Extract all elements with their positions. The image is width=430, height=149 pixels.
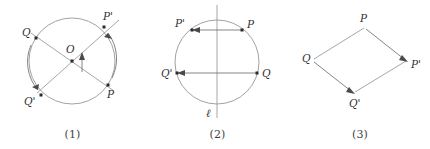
vertex-dot-o — [71, 60, 74, 63]
chord-p-pprime — [37, 20, 119, 93]
vertex-dot-qprime — [176, 72, 179, 75]
figure-2-reflection-diagram: P P' Q Q' ℓ — [145, 0, 290, 125]
side-q-to-p — [314, 28, 364, 59]
label-p: P — [359, 12, 368, 24]
arrowhead-qprime — [32, 84, 39, 90]
rotation-indicator-arrowhead — [79, 52, 85, 60]
label-p: P — [106, 88, 115, 100]
vertex-dot-pprime — [191, 29, 194, 32]
label-qprime: Q' — [349, 97, 361, 110]
label-pprime: P' — [102, 10, 113, 22]
figure-1-rotation-diagram: O P P' Q Q' — [0, 0, 145, 120]
vertex-dot-p — [107, 84, 110, 87]
label-p: P — [246, 18, 255, 30]
label-qprime: Q' — [24, 95, 36, 108]
figure-panel-1: O P P' Q Q' (1) — [0, 0, 145, 149]
label-qprime: Q' — [161, 67, 173, 80]
figure-3-translation-diagram: P P' Q Q' — [290, 0, 430, 120]
figure-1-caption: (1) — [0, 128, 145, 141]
label-q: Q — [22, 26, 31, 39]
figure-row: O P P' Q Q' (1) P P' — [0, 0, 430, 149]
vertex-dot-q — [256, 72, 259, 75]
vertex-dot-q — [35, 37, 38, 40]
label-q: Q — [262, 67, 271, 80]
figure-2-caption: (2) — [145, 128, 290, 141]
label-pprime: P' — [410, 58, 421, 70]
figure-panel-3: P P' Q Q' (3) — [290, 0, 430, 149]
figure-panel-2: P P' Q Q' ℓ (2) — [145, 0, 290, 149]
vertex-dot-pprime — [103, 26, 106, 29]
side-qprime-to-pprime — [355, 61, 406, 92]
label-center-o: O — [66, 43, 75, 55]
vertex-dot-p — [241, 29, 244, 32]
label-q: Q — [302, 52, 311, 65]
arrow-q-to-qprime — [314, 62, 351, 91]
figure-3-caption: (3) — [290, 128, 430, 141]
vertex-dot-qprime — [40, 94, 43, 97]
label-pprime: P' — [174, 17, 185, 29]
label-reflection-axis: ℓ — [206, 107, 211, 120]
arrow-p-to-pprime — [366, 29, 404, 59]
